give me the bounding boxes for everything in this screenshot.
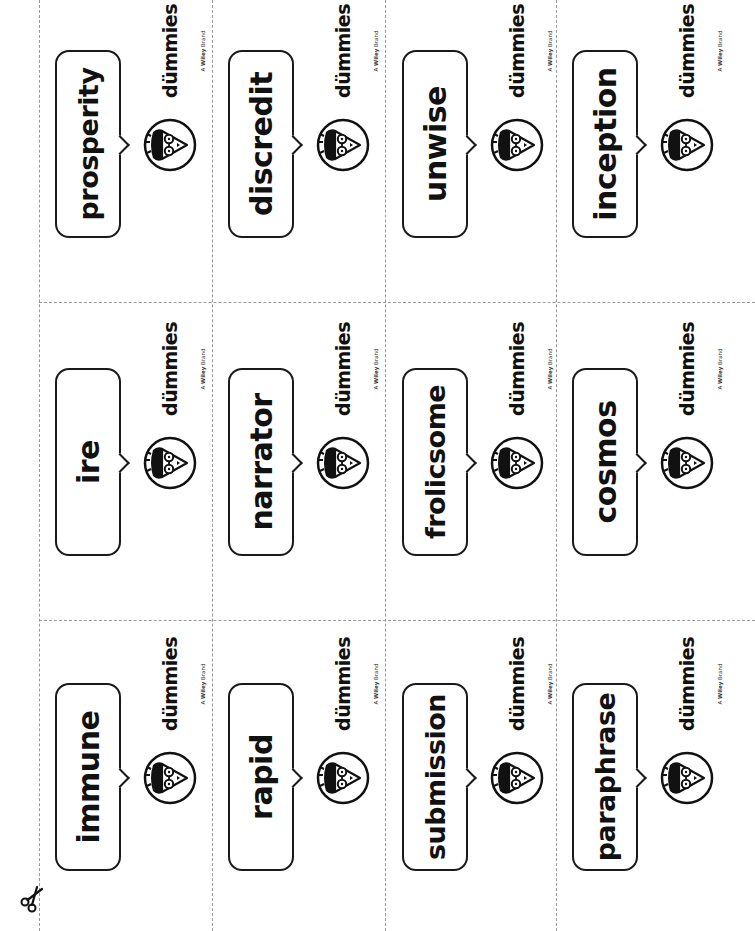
dummies-logo: dümmies A Wiley Brand [678,323,718,415]
dummies-logo: dümmies A Wiley Brand [508,638,548,730]
dummies-logo: dümmies A Wiley Brand [161,638,201,730]
cut-line-vertical [39,0,40,931]
logo-wordmark: dümmies [676,637,698,731]
dummies-mascot-icon [490,436,544,490]
dummies-mascot-icon [143,436,197,490]
dummies-logo: dümmies A Wiley Brand [161,323,201,415]
dummies-logo: dümmies A Wiley Brand [508,5,548,97]
flashcard-word: prosperity [73,68,104,221]
flashcard-sheet: prosperity dümmies A Wiley Brand discred… [0,0,755,931]
logo-tagline: A Wiley Brand [717,664,723,705]
cut-line-vertical [556,0,557,931]
logo-wordmark: dümmies [159,322,181,416]
logo-wordmark: dümmies [159,4,181,98]
logo-wordmark: dümmies [506,322,528,416]
dummies-logo: dümmies A Wiley Brand [678,638,718,730]
logo-wordmark: dümmies [676,322,698,416]
scissors-icon [18,885,46,913]
logo-tagline: A Wiley Brand [547,349,553,390]
cut-line-horizontal [39,620,755,621]
logo-wordmark: dümmies [676,4,698,98]
logo-wordmark: dümmies [332,322,354,416]
logo-tagline: A Wiley Brand [200,349,206,390]
logo-wordmark: dümmies [332,637,354,731]
logo-tagline: A Wiley Brand [717,349,723,390]
logo-tagline: A Wiley Brand [200,664,206,705]
flashcard-word: ire [71,440,106,484]
logo-tagline: A Wiley Brand [200,31,206,72]
dummies-mascot-icon [143,751,197,805]
logo-tagline: A Wiley Brand [547,31,553,72]
flashcard-word: frolicsome [420,385,451,539]
logo-wordmark: dümmies [332,4,354,98]
logo-tagline: A Wiley Brand [373,664,379,705]
dummies-mascot-icon [660,118,714,172]
dummies-mascot-icon [316,118,370,172]
dummies-logo: dümmies A Wiley Brand [508,323,548,415]
cut-line-vertical [212,0,213,931]
flashcard-word: unwise [418,86,453,202]
dummies-mascot-icon [660,751,714,805]
logo-wordmark: dümmies [159,637,181,731]
dummies-logo: dümmies A Wiley Brand [678,5,718,97]
logo-wordmark: dümmies [506,4,528,98]
flashcard-word: immune [71,711,106,844]
dummies-mascot-icon [316,436,370,490]
dummies-mascot-icon [490,751,544,805]
logo-wordmark: dümmies [506,637,528,731]
dummies-mascot-icon [143,118,197,172]
flashcard-word: paraphrase [590,693,621,862]
flashcard-word: rapid [244,734,279,820]
logo-tagline: A Wiley Brand [717,31,723,72]
flashcard-word: inception [588,67,623,220]
dummies-logo: dümmies A Wiley Brand [161,5,201,97]
logo-tagline: A Wiley Brand [373,349,379,390]
dummies-mascot-icon [490,118,544,172]
dummies-logo: dümmies A Wiley Brand [334,5,374,97]
logo-tagline: A Wiley Brand [547,664,553,705]
dummies-logo: dümmies A Wiley Brand [334,638,374,730]
logo-tagline: A Wiley Brand [373,31,379,72]
cut-line-horizontal [39,302,755,303]
flashcard-word: cosmos [588,401,623,524]
dummies-mascot-icon [660,436,714,490]
flashcard-word: submission [420,694,451,860]
flashcard-word: discredit [244,72,279,216]
dummies-logo: dümmies A Wiley Brand [334,323,374,415]
cut-line-vertical [385,0,386,931]
dummies-mascot-icon [316,751,370,805]
flashcard-word: narrator [244,393,279,530]
